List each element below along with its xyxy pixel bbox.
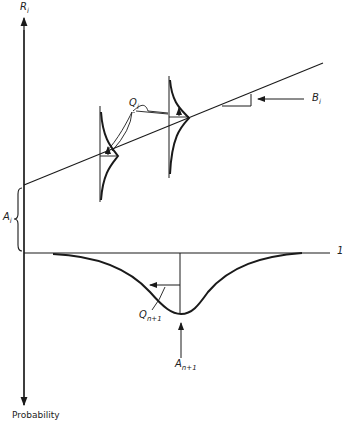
intercept-brace: [14, 188, 22, 251]
predicted-distribution: [53, 253, 302, 358]
distribution-right: [169, 76, 189, 178]
slope-label: Bi: [312, 92, 321, 106]
vertical-axis-label: Ri: [20, 1, 29, 15]
distribution-label: Qi: [129, 97, 139, 111]
diagram-canvas: Ri Ai Bi Qi 1 Qn+1 An+1 Probability: [0, 0, 356, 424]
horizontal-axis-label: 1: [337, 245, 343, 256]
next-mean-label: An+1: [175, 358, 197, 372]
distribution-leader: [105, 105, 168, 153]
regression-line: [24, 63, 323, 185]
probability-axis-label: Probability: [12, 410, 60, 420]
next-distribution-label: Qn+1: [139, 309, 162, 323]
intercept-label: Ai: [3, 211, 12, 225]
distribution-left: [100, 106, 118, 202]
slope-triangle: [222, 94, 251, 106]
